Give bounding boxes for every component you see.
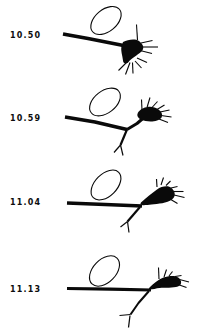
time-label-4: 11.13 <box>10 285 41 294</box>
growth-cone-body <box>141 186 175 205</box>
filopodium-spike <box>164 270 167 278</box>
filopodium-spike <box>159 119 168 123</box>
filopodium-spike <box>166 181 171 186</box>
filopodium-spike <box>119 61 129 71</box>
filopodium-spike <box>140 51 152 54</box>
filopodium-spike <box>126 63 131 75</box>
filopodium-spike <box>137 58 147 63</box>
cell-outline-ellipse <box>85 164 126 205</box>
filopodium-spike <box>133 63 134 74</box>
neurite-shaft <box>67 203 142 206</box>
panel-drawing-2 <box>65 83 172 156</box>
time-label-1: 10.50 <box>10 31 41 40</box>
cell-outline-ellipse <box>84 250 126 292</box>
neurite-shaft <box>67 289 151 291</box>
neurite-shaft <box>128 207 141 222</box>
filopodium-spike <box>142 100 143 111</box>
neurite-shaft <box>65 117 127 130</box>
filopodium-spike <box>178 285 187 288</box>
time-label-3: 11.04 <box>10 198 41 207</box>
neurite-shaft <box>129 316 131 328</box>
filopodium-spike <box>169 272 173 277</box>
filopodium-spike <box>161 116 172 118</box>
filopodium-spike <box>170 199 178 204</box>
neurite-shaft <box>131 291 150 315</box>
neurite-shaft <box>121 145 124 156</box>
filopodium-spike <box>152 102 158 108</box>
filopodium-spike <box>147 98 150 108</box>
filopodium-spike <box>174 195 185 198</box>
neurite-shaft <box>63 34 126 46</box>
figure-root: 10.50 10.59 11.04 11.13 <box>0 0 198 335</box>
neurite-shaft <box>128 222 130 233</box>
filopodium-spike <box>157 105 165 110</box>
filopodium-spike <box>160 110 170 112</box>
filopodium-spike <box>157 179 158 187</box>
filopodium-spike <box>137 25 138 41</box>
filopodium-spike <box>175 276 182 277</box>
panel-drawing-3 <box>67 164 185 232</box>
filopodium-spike <box>159 268 160 280</box>
growth-cone-body <box>149 276 181 290</box>
cell-outline-ellipse <box>84 83 125 122</box>
panel-drawing-4 <box>67 250 189 327</box>
panel-drawing-1 <box>63 1 158 75</box>
neurite-shaft <box>120 315 131 316</box>
neurite-shaft <box>121 222 128 228</box>
filopodium-spike <box>141 41 153 44</box>
neurite-shaft <box>121 130 128 146</box>
filopodium-spike <box>161 178 164 186</box>
filopodium-spike <box>135 61 142 68</box>
cell-outline-ellipse <box>86 1 127 40</box>
filopodium-spike <box>171 187 178 189</box>
time-label-2: 10.59 <box>10 114 41 123</box>
neurite-shaft <box>114 145 121 153</box>
